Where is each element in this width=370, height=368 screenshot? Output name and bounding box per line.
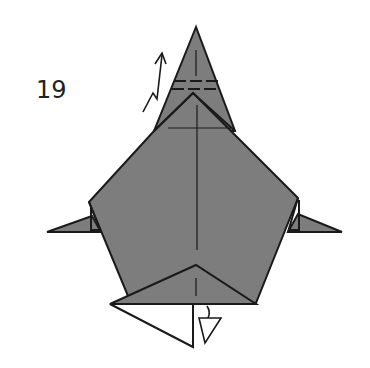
- push-arrow-icon: [199, 306, 221, 343]
- pleat-arrow-icon: [143, 53, 166, 112]
- white-reverse-flap: [110, 304, 193, 347]
- fold-diagram: [0, 0, 370, 368]
- origami-diagram-step: 19: [0, 0, 370, 368]
